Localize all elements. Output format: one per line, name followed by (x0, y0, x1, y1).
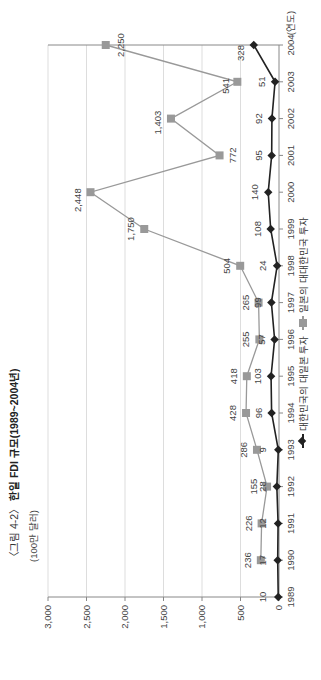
legend-item-japan: 일본의 대대한민국 투자 (296, 217, 310, 329)
x-tick-label: 1996 (285, 329, 296, 350)
legend: 대한민국의 대일본 투자 일본의 대대한민국 투자 (296, 217, 310, 448)
data-label-japan: 255 (240, 331, 251, 347)
x-tick-label: 2003 (285, 71, 296, 92)
data-label-japan: 772 (227, 147, 238, 163)
square-marker (102, 41, 110, 49)
diamond-marker (273, 482, 281, 490)
diamond-marker (274, 446, 282, 454)
x-tick-label: 2001 (285, 145, 296, 166)
data-label-japan: 226 (243, 515, 254, 531)
legend-label-korea: 대한민국의 대일본 투자 (296, 336, 310, 431)
data-label-korea: 12 (257, 518, 268, 529)
square-marker (140, 225, 148, 233)
x-tick-label: 1991 (285, 513, 296, 534)
x-tick-label: 2004 (285, 34, 296, 55)
square-marker (167, 115, 175, 123)
y-tick-label: 1,500 (158, 605, 169, 629)
data-label-japan: 1,403 (152, 111, 163, 135)
x-tick-label: 1994 (285, 402, 296, 423)
legend-item-korea: 대한민국의 대일본 투자 (296, 336, 310, 448)
data-label-japan: 2,448 (72, 188, 83, 212)
y-tick-label: 1,000 (196, 605, 207, 629)
data-label-korea: 17 (257, 555, 268, 566)
data-label-korea: 10 (257, 592, 268, 603)
data-label-korea: 57 (256, 334, 267, 345)
square-marker (243, 372, 251, 380)
data-label-korea: 328 (235, 45, 246, 61)
data-label-japan: 541 (220, 78, 231, 94)
data-label-japan: 236 (242, 552, 253, 568)
x-tick-label: 2002 (285, 108, 296, 129)
x-tick-label: 1999 (285, 218, 296, 239)
data-label-korea: 24 (257, 261, 268, 272)
data-label-korea: 140 (249, 184, 260, 200)
x-tick-label: 1993 (285, 439, 296, 460)
x-tick-label: 1989 (285, 586, 296, 607)
data-label-japan: 504 (221, 258, 232, 274)
square-marker (233, 78, 241, 86)
diamond-marker (270, 335, 278, 343)
x-tick-label: 1997 (285, 292, 296, 313)
data-label-korea: 108 (252, 221, 263, 237)
y-tick-label: 500 (235, 605, 246, 621)
data-label-korea: 99 (252, 297, 263, 308)
x-axis-unit-label: (연도) (285, 11, 296, 35)
data-label-korea: 103 (252, 368, 263, 384)
diamond-marker (267, 151, 275, 159)
square-marker (236, 262, 244, 270)
data-label-japan: 286 (238, 442, 249, 458)
x-tick-label: 1995 (285, 366, 296, 387)
y-tick-label: 3,000 (42, 605, 53, 629)
series-line-korea (254, 45, 279, 597)
diamond-marker (264, 188, 272, 196)
legend-label-japan: 일본의 대대한민국 투자 (296, 217, 310, 312)
diamond-marker (250, 41, 258, 49)
diamond-marker-icon (302, 434, 304, 448)
x-tick-label: 1998 (285, 255, 296, 276)
data-label-japan: 2,250 (115, 33, 126, 57)
square-marker (216, 151, 224, 159)
data-label-japan: 1,750 (125, 217, 136, 241)
x-tick-label: 1990 (285, 550, 296, 571)
data-label-korea: 92 (253, 113, 264, 124)
square-marker (87, 188, 95, 196)
y-tick-label: 2,000 (119, 605, 130, 629)
square-marker-icon (302, 316, 304, 330)
data-label-korea: 95 (253, 150, 264, 161)
diamond-marker (266, 225, 274, 233)
data-label-japan: 265 (240, 295, 251, 311)
line-chart: 05001,0001,5002,0002,5003,00019891990199… (0, 0, 321, 680)
diamond-marker (268, 114, 276, 122)
square-marker (242, 409, 250, 417)
data-label-korea: 9 (257, 447, 268, 452)
data-label-japan: 418 (228, 368, 239, 384)
diamond-marker (274, 519, 282, 527)
diamond-marker (267, 298, 275, 306)
data-label-japan: 428 (227, 405, 238, 421)
data-label-korea: 28 (257, 481, 268, 492)
diamond-marker (274, 593, 282, 601)
x-tick-label: 2000 (285, 182, 296, 203)
diamond-marker (267, 372, 275, 380)
data-label-korea: 96 (253, 408, 264, 419)
data-label-korea: 51 (256, 77, 267, 88)
diamond-marker (273, 262, 281, 270)
x-tick-label: 1992 (285, 476, 296, 497)
y-tick-label: 2,500 (81, 605, 92, 629)
diamond-marker (267, 409, 275, 417)
rotated-chart-figure: 〈그림 4-2〉 한일 FDI 규모(1989~2004년) (100만 달러)… (0, 0, 321, 680)
diamond-marker (271, 78, 279, 86)
diamond-marker (273, 556, 281, 564)
y-tick-label: 0 (273, 605, 284, 610)
